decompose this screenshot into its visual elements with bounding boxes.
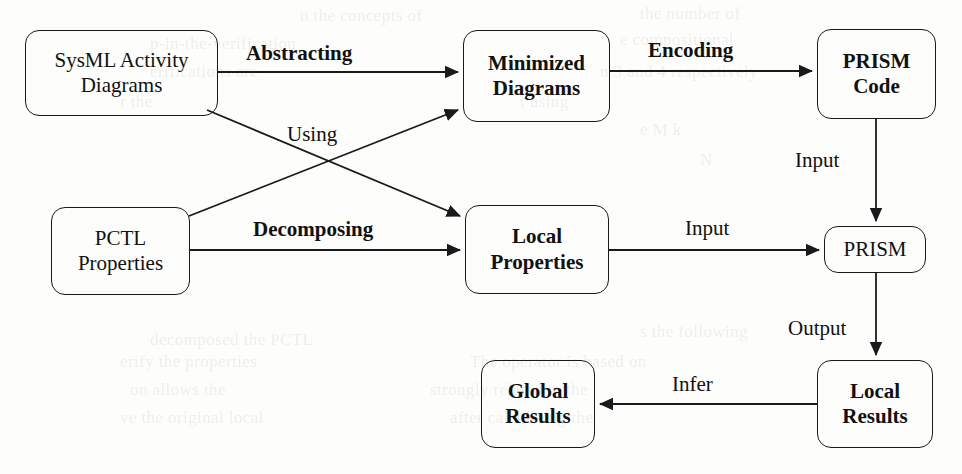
- node-label-minimized: Minimized Diagrams: [484, 51, 589, 101]
- edge-label-abstracting: Abstracting: [246, 41, 352, 66]
- node-global_results: Global Results: [481, 360, 595, 448]
- edge-label-infer: Infer: [672, 372, 713, 397]
- node-pctl: PCTL Properties: [51, 207, 190, 295]
- edge-label-encoding: Encoding: [648, 38, 733, 63]
- node-prism_code: PRISM Code: [817, 29, 936, 119]
- node-prism: PRISM: [824, 226, 926, 273]
- node-local_results: Local Results: [817, 360, 933, 448]
- edge-label-decomposing: Decomposing: [253, 217, 373, 242]
- edge-label-output: Output: [788, 316, 846, 341]
- node-minimized: Minimized Diagrams: [463, 30, 610, 122]
- edge-label-using: Using: [287, 122, 337, 147]
- node-label-prism_code: PRISM Code: [839, 49, 915, 99]
- node-label-prism: PRISM: [839, 237, 910, 262]
- edge-label-input_code: Input: [795, 148, 839, 173]
- figure-canvas: n the concepts ofthe number ofp-in-the-v…: [0, 0, 962, 474]
- node-label-pctl: PCTL Properties: [74, 226, 167, 276]
- edge-label-input_props: Input: [685, 216, 729, 241]
- node-label-global_results: Global Results: [501, 379, 574, 429]
- node-local_props: Local Properties: [465, 205, 609, 294]
- node-sysml: SysML Activity Diagrams: [25, 30, 218, 116]
- node-label-sysml: SysML Activity Diagrams: [51, 48, 193, 98]
- node-label-local_props: Local Properties: [487, 224, 588, 274]
- node-label-local_results: Local Results: [838, 379, 911, 429]
